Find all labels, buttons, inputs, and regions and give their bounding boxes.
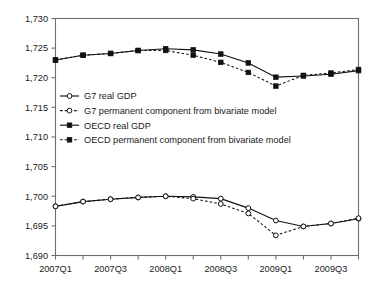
legend-swatch-marker-3	[67, 138, 72, 143]
data-point-marker	[136, 195, 141, 200]
y-axis-label: 1,705	[25, 162, 48, 172]
data-point-marker	[301, 73, 306, 78]
legend-label-2: OECD real GDP	[84, 121, 151, 131]
y-axis-label: 1,720	[25, 73, 48, 83]
data-point-marker	[246, 206, 251, 211]
data-point-marker	[108, 197, 113, 202]
legend-swatch-marker-2	[67, 123, 72, 128]
legend-label-3: OECD permanent component from bivariate …	[84, 135, 291, 145]
data-point-marker	[274, 75, 279, 80]
data-point-marker	[246, 211, 251, 216]
line-chart: 1,6901,6951,7001,7051,7101,7151,7201,725…	[0, 0, 375, 290]
x-axis-label: 2009Q1	[260, 264, 293, 274]
y-axis-label: 1,690	[25, 251, 48, 261]
data-point-marker	[218, 52, 223, 57]
data-point-marker	[163, 48, 168, 53]
data-point-marker	[356, 216, 361, 221]
x-axis-label: 2008Q1	[149, 264, 182, 274]
data-point-marker	[218, 202, 223, 207]
data-point-marker	[81, 53, 86, 58]
data-point-marker	[246, 70, 251, 75]
data-point-marker	[218, 196, 223, 201]
x-axis-label: 2008Q3	[204, 264, 237, 274]
legend-swatch-marker-0	[67, 94, 72, 99]
data-point-marker	[136, 48, 141, 53]
series-line-1	[56, 196, 359, 235]
y-axis-label: 1,695	[25, 221, 48, 231]
data-point-marker	[274, 84, 279, 89]
y-axis-label: 1,710	[25, 132, 48, 142]
legend-label-0: G7 real GDP	[84, 91, 137, 101]
data-point-marker	[301, 224, 306, 229]
data-point-marker	[108, 51, 113, 56]
data-point-marker	[329, 221, 334, 226]
series-line-2	[56, 49, 359, 77]
data-point-marker	[191, 53, 196, 58]
x-axis-label: 2007Q1	[39, 264, 72, 274]
chart-container: 1,6901,6951,7001,7051,7101,7151,7201,725…	[0, 0, 375, 290]
data-point-marker	[53, 204, 58, 209]
series-line-3	[56, 51, 359, 87]
y-axis-label: 1,725	[25, 43, 48, 53]
data-point-marker	[191, 48, 196, 53]
y-axis-label: 1,700	[25, 192, 48, 202]
data-point-marker	[191, 196, 196, 201]
data-point-marker	[163, 194, 168, 199]
data-point-marker	[273, 233, 278, 238]
x-axis-label: 2007Q3	[94, 264, 127, 274]
y-axis-label: 1,730	[25, 14, 48, 24]
y-axis-label: 1,715	[25, 103, 48, 113]
data-point-marker	[329, 71, 334, 76]
data-point-marker	[356, 67, 361, 72]
data-point-marker	[218, 60, 223, 65]
data-point-marker	[246, 61, 251, 66]
legend-label-1: G7 permanent component from bivariate mo…	[84, 106, 277, 116]
data-point-marker	[81, 199, 86, 204]
legend-swatch-marker-1	[67, 108, 72, 113]
data-point-marker	[273, 218, 278, 223]
data-point-marker	[53, 58, 58, 63]
x-axis-label: 2009Q3	[315, 264, 348, 274]
